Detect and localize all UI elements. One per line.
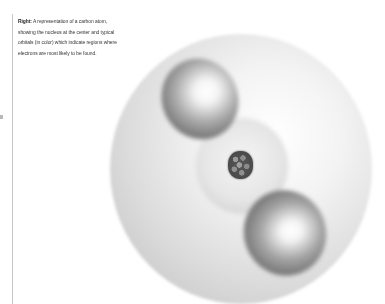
cropped-text-fragment (0, 115, 3, 119)
caption-lead: Right: (18, 18, 32, 24)
caption-line-3: orbitals (in color) which indicate regio… (18, 39, 117, 45)
caption-line-4: electrons are most likely to be found. (18, 50, 96, 56)
caption-line-2: showing the nucleus at the center and ty… (18, 29, 114, 35)
margin-rule (12, 14, 13, 304)
carbon-atom-illustration (108, 30, 374, 304)
nucleus (228, 151, 253, 179)
caption-line-1: A representation of a carbon atom, (32, 18, 107, 24)
